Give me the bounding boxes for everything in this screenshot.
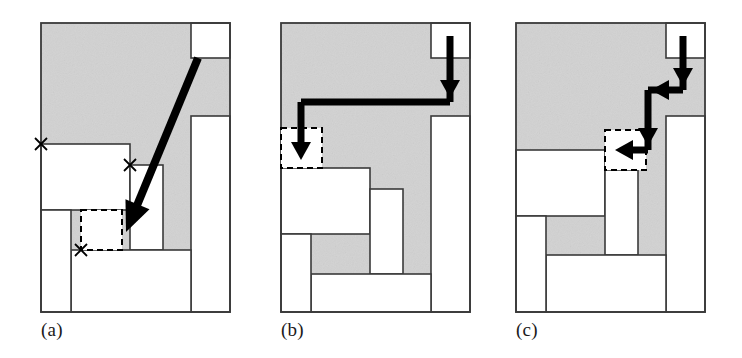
- panel-b: (b): [270, 0, 517, 358]
- panel-b-drawing: [270, 0, 517, 320]
- bottom-left-block: [516, 216, 546, 312]
- figure-root: (a) (b) (c): [0, 0, 742, 358]
- right-tall-column: [666, 116, 705, 312]
- left-upper-block: [41, 144, 130, 210]
- left-upper-block: [516, 150, 605, 216]
- right-tall-column: [191, 116, 230, 312]
- panel-c: (c): [505, 0, 742, 358]
- panel-a: (a): [30, 0, 277, 358]
- mid-vertical-block: [370, 189, 403, 274]
- panel-a-caption: (a): [41, 320, 63, 339]
- panel-c-drawing: [505, 0, 742, 320]
- bottom-wide-block: [71, 250, 191, 312]
- bottom-left-block: [281, 234, 311, 312]
- top-right-block: [191, 23, 230, 58]
- bottom-left-block: [41, 210, 71, 312]
- panel-a-drawing: [30, 0, 277, 320]
- left-upper-block: [281, 168, 370, 234]
- panel-b-caption: (b): [281, 320, 304, 339]
- bottom-wide-block: [311, 274, 431, 312]
- target-dashed-box: [81, 210, 122, 250]
- right-tall-column: [431, 116, 470, 312]
- mid-vertical-block: [605, 170, 638, 255]
- bottom-wide-block: [546, 255, 666, 312]
- panel-c-caption: (c): [516, 320, 538, 339]
